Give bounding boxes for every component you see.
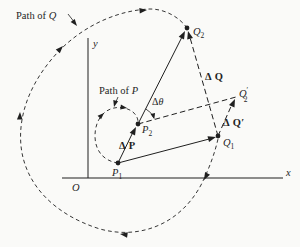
point-p1-label: P1 xyxy=(111,167,122,181)
point-p1-dot xyxy=(116,161,121,166)
path-p-motion-arrowhead xyxy=(120,105,127,111)
line-p1-q1-arrowhead xyxy=(207,134,216,142)
x-axis-label: x xyxy=(285,167,291,178)
path-q-motion-arrowhead xyxy=(139,7,147,13)
path-q-label-pointer xyxy=(68,14,79,28)
delta-theta-arc xyxy=(146,109,157,120)
vector-delta-q-prime-label: Δ Q′ xyxy=(223,117,245,128)
y-axis-label: y xyxy=(92,38,98,49)
line-p2-q2 xyxy=(138,35,183,124)
axes: y x O xyxy=(62,38,291,193)
path-of-p-label: Path of P xyxy=(99,85,139,96)
path-of-q-arc xyxy=(21,9,218,232)
point-q1-dot xyxy=(216,134,221,139)
delta-theta-label: Δθ xyxy=(152,96,163,107)
origin-label: O xyxy=(72,182,80,193)
path-q-motion-arrowhead xyxy=(202,172,210,181)
point-q1-label: Q1 xyxy=(223,137,235,151)
path-p-motion-arrowhead xyxy=(98,111,106,119)
vector-delta-p-label: Δ P xyxy=(119,140,136,151)
delta-p-arrowhead xyxy=(130,126,139,136)
path-p-label-pointer xyxy=(112,97,119,108)
vector-delta-q-line xyxy=(189,34,218,136)
figure-canvas: y x O xyxy=(0,0,300,247)
delta-q-arrowhead xyxy=(185,30,193,39)
path-of-q-curve xyxy=(17,7,218,238)
vector-delta-q-label: Δ Q xyxy=(205,71,223,82)
point-q2-dot xyxy=(185,26,190,31)
point-q2-prime-label: Q′2 xyxy=(239,86,249,104)
figure: y x O xyxy=(0,0,300,247)
delta-q-prime-arrowhead xyxy=(229,98,238,108)
path-of-q-label: Path of Q xyxy=(16,10,57,21)
point-p2-dot xyxy=(136,122,141,127)
point-q2-label: Q2 xyxy=(193,26,205,40)
point-p2-label: P2 xyxy=(141,124,152,138)
line-p2-q2-arrowhead xyxy=(179,30,188,40)
path-q-motion-arrowhead xyxy=(17,112,23,120)
path-q-motion-arrowhead xyxy=(56,44,65,53)
